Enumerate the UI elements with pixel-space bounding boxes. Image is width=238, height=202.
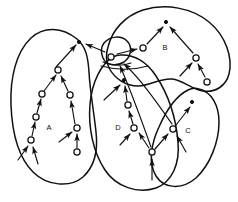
root-node[interactable] (190, 100, 193, 103)
cluster-a-nodes (28, 40, 81, 155)
tree-edge (155, 134, 168, 149)
cluster-outline-d[interactable] (90, 55, 179, 190)
tree-node[interactable] (28, 137, 34, 143)
cluster-label-d: D (115, 123, 121, 132)
tree-edge (44, 75, 56, 91)
tree-node[interactable] (131, 125, 137, 131)
tree-node[interactable] (39, 91, 45, 97)
cluster-b-edges (147, 27, 205, 77)
tree-edge (37, 99, 41, 113)
cluster-label-c: C (185, 126, 191, 135)
cluster-c-edges (152, 107, 190, 180)
tree-node[interactable] (74, 125, 80, 131)
cluster-outline-a[interactable] (11, 29, 97, 184)
cross-cluster-edges (86, 44, 172, 147)
tree-node[interactable] (33, 114, 39, 120)
tree-edge (129, 111, 133, 124)
tree-edge (71, 101, 75, 124)
tree-edge (147, 27, 163, 44)
cluster-outlines (11, 7, 230, 190)
figure-root: A B C D (0, 0, 238, 202)
cluster-diagram: A B C D (0, 0, 238, 202)
cluster-label-b: B (162, 43, 167, 52)
cluster-junction-lobe (102, 37, 131, 65)
tree-edge (176, 107, 190, 125)
junction-node[interactable] (108, 54, 114, 60)
root-node[interactable] (164, 20, 167, 23)
tree-edge (117, 49, 137, 54)
cluster-a-edges (18, 45, 77, 164)
cluster-label-a: A (46, 123, 51, 132)
tree-node[interactable] (204, 79, 210, 85)
tree-edge (139, 133, 149, 148)
root-node[interactable] (77, 40, 80, 43)
tree-edge (125, 86, 127, 101)
tree-node[interactable] (125, 102, 131, 108)
cluster-d-edges (104, 85, 149, 148)
tree-edge (104, 85, 120, 100)
tree-node[interactable] (67, 92, 73, 98)
tree-node[interactable] (55, 67, 61, 73)
cross-cluster-nodes (108, 54, 114, 60)
tree-node[interactable] (149, 149, 155, 155)
root-node[interactable] (122, 78, 125, 81)
tree-edge (32, 122, 35, 136)
tree-edge (59, 132, 72, 142)
tree-node[interactable] (193, 55, 199, 61)
cluster-outline-c[interactable] (151, 88, 219, 186)
tree-edge (61, 76, 68, 91)
tree-edge (33, 147, 38, 164)
tree-edge (120, 134, 130, 145)
tree-node[interactable] (74, 149, 80, 155)
tree-node[interactable] (140, 45, 146, 51)
cluster-b-nodes (140, 20, 210, 85)
tree-edge (198, 64, 205, 77)
tree-edge (170, 27, 193, 53)
tree-node[interactable] (170, 126, 176, 132)
tree-edge (56, 45, 76, 67)
tree-edge (180, 63, 192, 76)
